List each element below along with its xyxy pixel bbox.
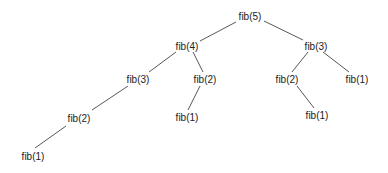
tree-node-fib5: fib(5)	[239, 11, 262, 22]
tree-node-fib1: fib(1)	[176, 112, 199, 123]
tree-node-fib2: fib(2)	[68, 113, 91, 124]
tree-edge	[35, 126, 66, 148]
tree-edges	[0, 0, 388, 173]
tree-edge	[92, 86, 128, 110]
tree-node-fib3: fib(3)	[127, 74, 150, 85]
tree-edge	[292, 52, 308, 72]
fib-call-tree: fib(5) fib(4) fib(3) fib(3) fib(2) fib(2…	[0, 0, 388, 173]
tree-edge	[297, 86, 314, 108]
tree-node-fib4: fib(4)	[176, 41, 199, 52]
tree-node-fib2: fib(2)	[194, 74, 217, 85]
tree-edge	[149, 52, 176, 72]
tree-edge	[193, 52, 203, 72]
tree-edge	[188, 86, 200, 110]
tree-node-fib3: fib(3)	[305, 41, 328, 52]
tree-node-fib1: fib(1)	[346, 74, 369, 85]
tree-edge	[323, 52, 349, 72]
tree-edge	[200, 22, 236, 41]
tree-node-fib1: fib(1)	[306, 110, 329, 121]
tree-node-fib2: fib(2)	[276, 74, 299, 85]
tree-node-fib1: fib(1)	[22, 151, 45, 162]
tree-edge	[264, 21, 303, 40]
